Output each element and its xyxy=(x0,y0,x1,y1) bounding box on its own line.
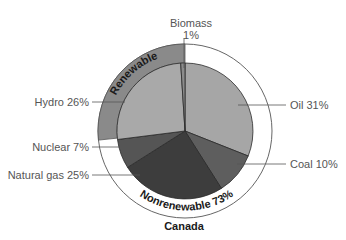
label-biomass-pct: 1% xyxy=(183,29,199,41)
label-nuclear: Nuclear 7% xyxy=(32,141,89,153)
label-coal: Coal 10% xyxy=(290,158,338,170)
label-natural-gas: Natural gas 25% xyxy=(8,169,90,181)
energy-pie-chart: Biomass 1% Oil 31% Coal 10% Hydro 26% Nu… xyxy=(0,0,346,240)
label-oil: Oil 31% xyxy=(290,99,329,111)
label-biomass-name: Biomass xyxy=(170,17,213,29)
pie-slices xyxy=(117,63,253,199)
chart-title: Canada xyxy=(164,220,205,232)
label-hydro: Hydro 26% xyxy=(35,96,90,108)
